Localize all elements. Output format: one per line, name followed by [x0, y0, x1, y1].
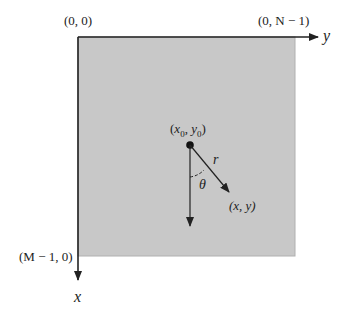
- corner-label-top-right: (0, N − 1): [258, 14, 309, 27]
- center-point-label: (x0, y0): [170, 122, 206, 139]
- diagram-graphics: [0, 0, 346, 315]
- corner-label-bottom-left: (M − 1, 0): [19, 250, 73, 263]
- end-point-label: (x, y): [229, 199, 256, 212]
- radius-label: r: [213, 153, 218, 167]
- angle-label: θ: [199, 178, 206, 192]
- image-region: [78, 37, 295, 256]
- y-axis-label: y: [323, 28, 330, 44]
- x-axis-label: x: [74, 289, 81, 305]
- corner-label-top-left: (0, 0): [64, 14, 92, 27]
- end-point-text: (x, y): [229, 198, 256, 213]
- center-close-paren: ): [201, 121, 205, 136]
- coordinate-diagram: (0, 0) (0, N − 1) (M − 1, 0) y x (x0, y0…: [0, 0, 346, 315]
